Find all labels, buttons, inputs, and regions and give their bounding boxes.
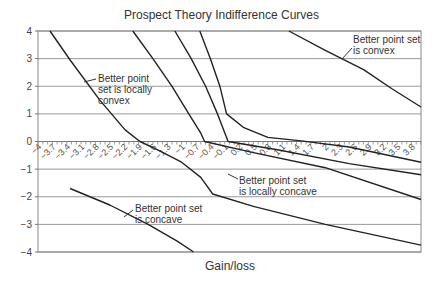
annotation-line: set is locally bbox=[98, 84, 152, 95]
annotation-line: Better point bbox=[98, 73, 152, 84]
x-tick-label: −1.3 bbox=[153, 142, 173, 162]
y-tick-label: 1 bbox=[26, 108, 32, 119]
annotation-line: Better point set bbox=[135, 203, 202, 214]
annotation-line: Better point set bbox=[239, 175, 317, 186]
x-tick-label: 2.6 bbox=[343, 142, 359, 158]
annotation-line: is locally concave bbox=[239, 186, 317, 197]
annotation-locally-convex: Better point set is locally convex bbox=[98, 73, 152, 106]
annotation-line: Better point set bbox=[353, 34, 420, 45]
y-tick-label: 2 bbox=[26, 81, 32, 92]
y-tick-label: 4 bbox=[26, 26, 32, 37]
x-axis-label: Gain/loss bbox=[0, 259, 443, 273]
annotation-locally-concave: Better point set is locally concave bbox=[239, 175, 317, 197]
y-tick-label: 3 bbox=[26, 53, 32, 64]
annotation-concave: Better point set is concave bbox=[135, 203, 202, 225]
annotation-line: is concave bbox=[135, 214, 202, 225]
y-tick-label: −4 bbox=[21, 247, 33, 258]
annotation-pointer bbox=[228, 174, 238, 179]
y-tick-label: −2 bbox=[21, 191, 33, 202]
y-tick-label: −3 bbox=[21, 219, 33, 230]
indifference-curve bbox=[50, 31, 421, 245]
x-tick-label: 3.8 bbox=[401, 142, 417, 158]
annotation-pointer bbox=[342, 48, 352, 59]
y-tick-label: −1 bbox=[21, 164, 33, 175]
annotation-convex: Better point set is convex bbox=[353, 34, 420, 56]
x-tick-label: 1.4 bbox=[286, 142, 302, 158]
annotation-line: is convex bbox=[353, 45, 420, 56]
annotation-line: convex bbox=[98, 95, 152, 106]
